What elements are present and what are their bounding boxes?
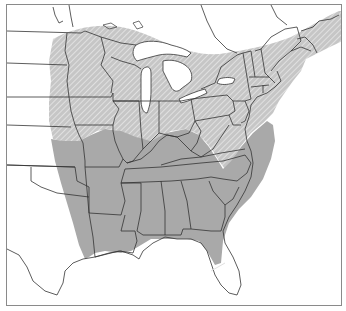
lake-michigan (141, 67, 151, 113)
range-map (7, 5, 342, 306)
florida-range-edge (211, 263, 225, 271)
map-frame (6, 4, 342, 306)
lake-ontario (217, 78, 235, 85)
